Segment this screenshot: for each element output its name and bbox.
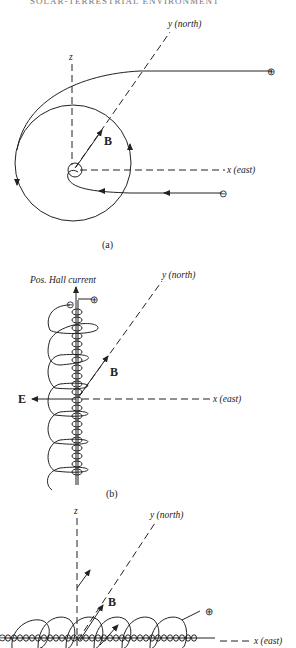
electron-loops	[6, 635, 197, 641]
positive-charge-icon: ⊕	[267, 66, 275, 77]
panel-a: z y (north) x (east) B ⊕ ⊖ (a)	[15, 19, 275, 251]
magnetic-field-label: B	[110, 365, 118, 379]
x-axis-label: x (east)	[212, 394, 241, 405]
drift-arrow	[77, 570, 90, 588]
hall-current-label: Pos. Hall current	[29, 275, 96, 285]
y-axis-label: y (north)	[161, 270, 196, 281]
magnetic-field-label: B	[108, 595, 116, 609]
negative-charge-icon: ⊖	[219, 188, 227, 199]
z-axis-label: z	[68, 52, 73, 62]
negative-charge-icon: ⊖	[0, 632, 6, 643]
electric-field-label: E	[18, 392, 26, 406]
positive-charge-icon: ⊕	[90, 294, 98, 305]
y-axis	[78, 523, 155, 640]
particle-drift-diagram: SOLAR-TERRESTRIAL ENVIRONMENT z y (north…	[0, 0, 296, 648]
panel-c: z y (north) B ⊕	[0, 506, 282, 648]
magnetic-field-label: B	[104, 134, 112, 148]
ion-cycloid	[12, 617, 187, 648]
positive-charge-icon: ⊕	[205, 606, 213, 617]
panel-b: Pos. Hall current ⊕ ⊖	[18, 270, 241, 500]
electron-trajectory	[68, 170, 222, 193]
z-axis-label: z	[73, 506, 78, 516]
y-axis-label: y (north)	[167, 19, 202, 30]
panel-a-caption: (a)	[102, 239, 113, 251]
electron-gyration-circle	[68, 163, 82, 177]
x-axis-label: x (east)	[253, 636, 282, 647]
magnetic-field-arrow	[80, 356, 108, 395]
x-axis-label: x (east)	[226, 165, 255, 176]
y-axis-label: y (north)	[149, 510, 184, 521]
panel-b-caption: (b)	[106, 488, 118, 500]
magnetic-field-arrow	[76, 130, 102, 167]
page-header: SOLAR-TERRESTRIAL ENVIRONMENT	[30, 0, 219, 6]
positive-ion-trajectory	[17, 71, 272, 150]
